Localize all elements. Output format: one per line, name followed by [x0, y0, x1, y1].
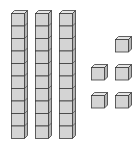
unit-cube — [91, 64, 109, 82]
unit-cube — [115, 36, 133, 54]
tens-rod — [59, 10, 77, 140]
unit-cube — [115, 92, 133, 110]
tens-rod — [35, 10, 53, 140]
tens-rod — [11, 10, 29, 140]
unit-cube — [115, 64, 133, 82]
unit-cube — [91, 92, 109, 110]
